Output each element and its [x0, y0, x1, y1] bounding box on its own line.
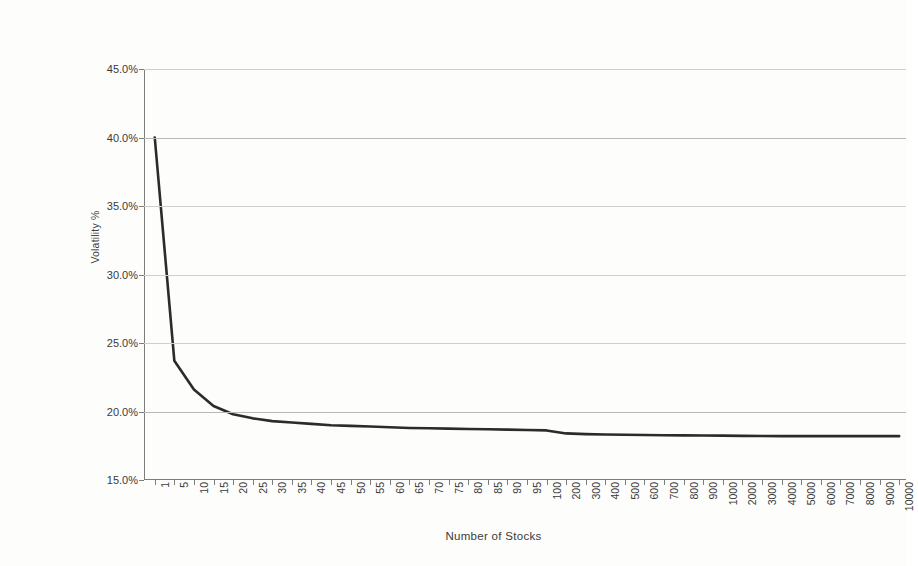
x-tick-label: 45: [335, 482, 347, 494]
series-path: [155, 138, 899, 437]
y-axis-tick-labels: 45.0%40.0%35.0%30.0%25.0%20.0%15.0%: [76, 69, 138, 480]
y-tick-mark: [139, 480, 144, 481]
x-tick-label: 75: [453, 482, 465, 494]
x-tick-label: 10000: [903, 482, 915, 511]
x-tick-label: 10: [198, 482, 210, 494]
x-tick-label: 500: [629, 482, 641, 500]
x-tick-label: 100: [551, 482, 563, 500]
x-tick-label: 200: [570, 482, 582, 500]
gridline-25.0%: [144, 343, 906, 344]
x-tick-label: 40: [315, 482, 327, 494]
x-tick-label: 35: [296, 482, 308, 494]
gridline-35.0%: [144, 206, 906, 207]
gridline-20.0%: [144, 412, 906, 413]
y-tick-label: 25.0%: [76, 337, 138, 349]
volatility-diversification-chart: Volatility % 45.0%40.0%35.0%30.0%25.0%20…: [40, 16, 918, 566]
plot-area: [144, 69, 906, 480]
x-tick-label: 55: [374, 482, 386, 494]
x-tick-label: 15: [218, 482, 230, 494]
x-tick-label: 85: [492, 482, 504, 494]
x-tick-label: 3000: [766, 482, 778, 505]
y-tick-label: 30.0%: [76, 269, 138, 281]
x-tick-label: 60: [394, 482, 406, 494]
y-tick-mark: [139, 138, 144, 139]
x-tick-label: 90: [511, 482, 523, 494]
gridline-30.0%: [144, 275, 906, 276]
x-tick-label: 20: [237, 482, 249, 494]
y-tick-mark: [139, 206, 144, 207]
x-tick-label: 65: [413, 482, 425, 494]
y-tick-mark: [139, 69, 144, 70]
x-tick-label: 25: [257, 482, 269, 494]
y-tick-mark: [139, 343, 144, 344]
x-tick-label: 900: [707, 482, 719, 500]
x-tick-label: 7000: [844, 482, 856, 505]
x-tick-label: 300: [590, 482, 602, 500]
x-tick-label: 1: [159, 482, 171, 488]
x-tick-label: 30: [276, 482, 288, 494]
x-tick-label: 700: [668, 482, 680, 500]
x-tick-label: 1000: [727, 482, 739, 505]
x-tick-label: 70: [433, 482, 445, 494]
x-tick-label: 5000: [805, 482, 817, 505]
y-tick-label: 15.0%: [76, 474, 138, 486]
x-tick-label: 6000: [825, 482, 837, 505]
y-tick-label: 45.0%: [76, 63, 138, 75]
gridline-45.0%: [144, 69, 906, 70]
x-tick-label: 95: [531, 482, 543, 494]
x-tick-label: 80: [472, 482, 484, 494]
x-tick-label: 9000: [884, 482, 896, 505]
x-tick-label: 600: [648, 482, 660, 500]
x-tick-label: 4000: [786, 482, 798, 505]
y-tick-label: 35.0%: [76, 200, 138, 212]
x-tick-label: 50: [355, 482, 367, 494]
y-tick-mark: [139, 412, 144, 413]
gridline-40.0%: [144, 138, 906, 139]
x-tick-label: 5: [178, 482, 190, 488]
y-tick-label: 40.0%: [76, 132, 138, 144]
x-tick-label: 400: [609, 482, 621, 500]
y-tick-mark: [139, 275, 144, 276]
x-tick-label: 800: [688, 482, 700, 500]
y-tick-label: 20.0%: [76, 406, 138, 418]
x-tick-label: 2000: [746, 482, 758, 505]
x-axis-title: Number of Stocks: [40, 530, 918, 542]
x-tick-label: 8000: [864, 482, 876, 505]
